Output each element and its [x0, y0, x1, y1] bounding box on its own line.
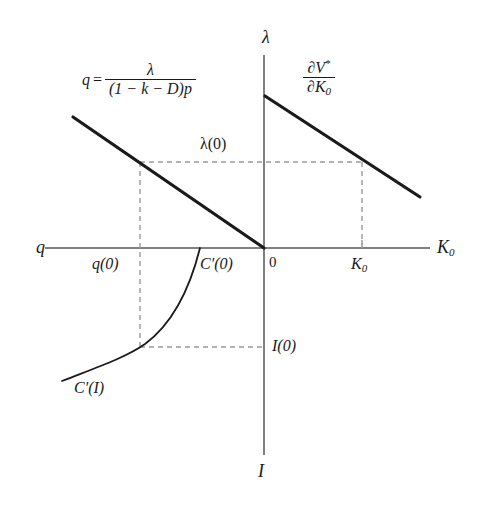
value-derivative-numerator: ∂V*: [303, 58, 335, 77]
lines-group: [73, 96, 420, 248]
value-derivative-label: ∂V* ∂K0: [303, 58, 335, 96]
axis-label-K0-subscript: 0: [449, 246, 455, 258]
value-derivative-denominator: ∂K0: [303, 77, 335, 97]
q-equation-lhs: q: [82, 72, 90, 88]
c-prime-I-label: C′(I): [74, 380, 104, 396]
marginal-value-line: [265, 96, 420, 197]
k-zero-tick-label: K0: [351, 256, 367, 274]
c-prime-zero-label: C′(0): [200, 256, 233, 272]
marginal-cost-curve: [62, 248, 200, 381]
q-schedule-line: [73, 117, 264, 248]
guide-lines-group: [140, 162, 362, 347]
axis-label-q: q: [36, 238, 45, 256]
axis-label-K0: K0: [437, 238, 455, 258]
q-equation-equals: =: [93, 72, 102, 88]
axis-label-K0-base: K: [437, 237, 449, 257]
lambda-zero-label: λ(0): [200, 136, 226, 152]
k-zero-tick-subscript: 0: [362, 262, 368, 274]
origin-label: 0: [269, 255, 277, 270]
star-symbol: *: [325, 57, 331, 69]
diagram-svg: [0, 0, 489, 508]
value-derivative-fraction: ∂V* ∂K0: [303, 58, 335, 96]
q-equation-fraction: λ (1 − k − D)p: [105, 62, 196, 97]
q-zero-label: q(0): [92, 256, 119, 272]
I-zero-label: I(0): [272, 338, 296, 354]
partial-symbol-denominator: ∂: [307, 78, 315, 95]
q-equation-label: q = λ (1 − k − D)p: [82, 62, 196, 97]
q-equation-numerator: λ: [105, 62, 196, 79]
axis-label-I: I: [258, 462, 264, 480]
axis-label-lambda: λ: [262, 28, 270, 46]
capital-subscript: 0: [326, 84, 332, 96]
q-equation-denominator: (1 − k − D)p: [105, 79, 196, 97]
capital-symbol: K: [315, 78, 326, 95]
k-zero-tick-base: K: [351, 255, 362, 272]
value-function-symbol: V: [315, 59, 325, 76]
figure-canvas: λ I K0 q 0 q = λ (1 − k − D)p ∂V* ∂K0: [0, 0, 489, 508]
